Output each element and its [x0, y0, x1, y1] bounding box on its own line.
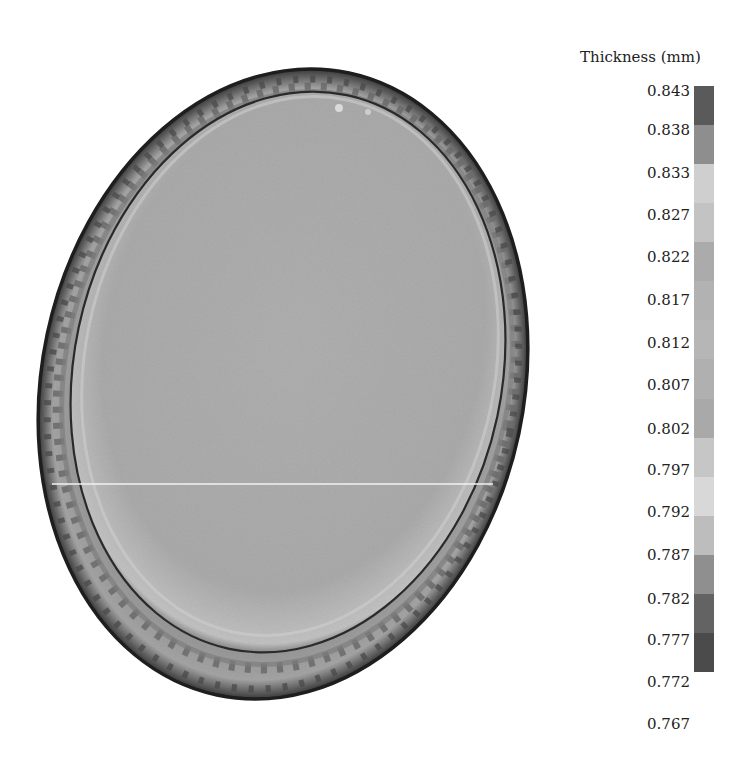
legend-color-band: [694, 633, 714, 673]
legend-color-band: [694, 477, 714, 517]
legend-tick-label: 0.807: [647, 377, 690, 393]
legend-color-band: [694, 438, 714, 478]
legend-title: Thickness (mm): [580, 48, 701, 66]
thickness-contour-figure: Thickness (mm) 0.843 0.838 0.833 0.827 0…: [0, 0, 749, 768]
legend-color-band: [694, 399, 714, 439]
legend-color-band: [694, 516, 714, 556]
legend-tick-label: 0.797: [647, 462, 690, 478]
legend-color-band: [694, 203, 714, 243]
legend-color-band: [694, 359, 714, 399]
legend-tick-label: 0.833: [647, 165, 690, 181]
legend-color-bar: [694, 86, 714, 672]
legend-tick-label: 0.817: [647, 292, 690, 308]
legend-tick-label: 0.827: [647, 207, 690, 223]
legend-tick-label: 0.838: [647, 122, 690, 138]
legend-color-band: [694, 86, 714, 126]
legend-tick-label: 0.767: [647, 716, 690, 732]
legend-tick-label: 0.777: [647, 632, 690, 648]
legend-color-band: [694, 320, 714, 360]
highlight-speck: [335, 104, 343, 112]
legend-color-band: [694, 164, 714, 204]
legend-color-band: [694, 555, 714, 595]
legend-color-band: [694, 125, 714, 165]
legend-tick-label: 0.782: [647, 591, 690, 607]
highlight-speck: [365, 109, 371, 115]
legend-tick-label: 0.787: [647, 547, 690, 563]
legend-tick-label: 0.822: [647, 249, 690, 265]
legend-tick-label: 0.772: [647, 674, 690, 690]
legend-tick-label: 0.812: [647, 335, 690, 351]
legend-tick-label: 0.792: [647, 504, 690, 520]
cup-contour-plot: [0, 0, 749, 768]
legend-tick-label: 0.802: [647, 421, 690, 437]
legend-color-band: [694, 281, 714, 321]
legend-color-band: [694, 242, 714, 282]
legend-color-band: [694, 594, 714, 634]
legend-tick-label: 0.843: [647, 83, 690, 99]
